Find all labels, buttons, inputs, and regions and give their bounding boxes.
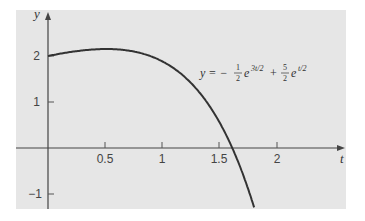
chart: 0.5 1 1.5 2 2 1 −1 y t y = − 1 2 e 3t/2 … bbox=[0, 0, 365, 221]
svg-text:2: 2 bbox=[283, 74, 287, 83]
y-axis-label: y bbox=[32, 6, 40, 21]
y-tick-label: 2 bbox=[33, 49, 40, 63]
x-tick-label: 1 bbox=[159, 152, 166, 166]
svg-text:e: e bbox=[244, 66, 250, 80]
plot-background bbox=[16, 10, 346, 209]
svg-text:+: + bbox=[270, 66, 277, 80]
svg-text:2: 2 bbox=[236, 74, 240, 83]
svg-text:y = −: y = − bbox=[199, 66, 228, 80]
svg-text:1: 1 bbox=[236, 63, 240, 72]
y-tick-label: −1 bbox=[28, 187, 42, 201]
svg-text:3t/2: 3t/2 bbox=[250, 64, 263, 73]
x-axis-label: t bbox=[340, 151, 344, 166]
x-tick-label: 1.5 bbox=[211, 152, 228, 166]
svg-text:t/2: t/2 bbox=[298, 64, 306, 73]
x-tick-label: 0.5 bbox=[97, 152, 114, 166]
svg-text:e: e bbox=[291, 66, 297, 80]
y-tick-label: 1 bbox=[33, 95, 40, 109]
x-tick-label: 2 bbox=[274, 152, 281, 166]
svg-text:5: 5 bbox=[283, 63, 287, 72]
